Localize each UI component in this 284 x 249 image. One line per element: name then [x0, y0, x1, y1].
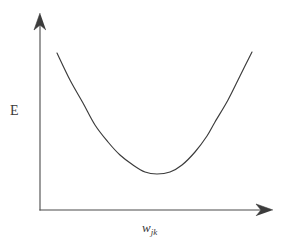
error-curve-path: [57, 52, 252, 174]
y-axis-label: E: [10, 104, 19, 118]
x-axis-label-base: w: [142, 220, 151, 235]
x-axis-label: wjk: [142, 221, 157, 237]
plot-canvas: [0, 0, 284, 249]
x-axis-label-subscript: jk: [151, 227, 158, 237]
error-surface-figure: E wjk: [0, 0, 284, 249]
